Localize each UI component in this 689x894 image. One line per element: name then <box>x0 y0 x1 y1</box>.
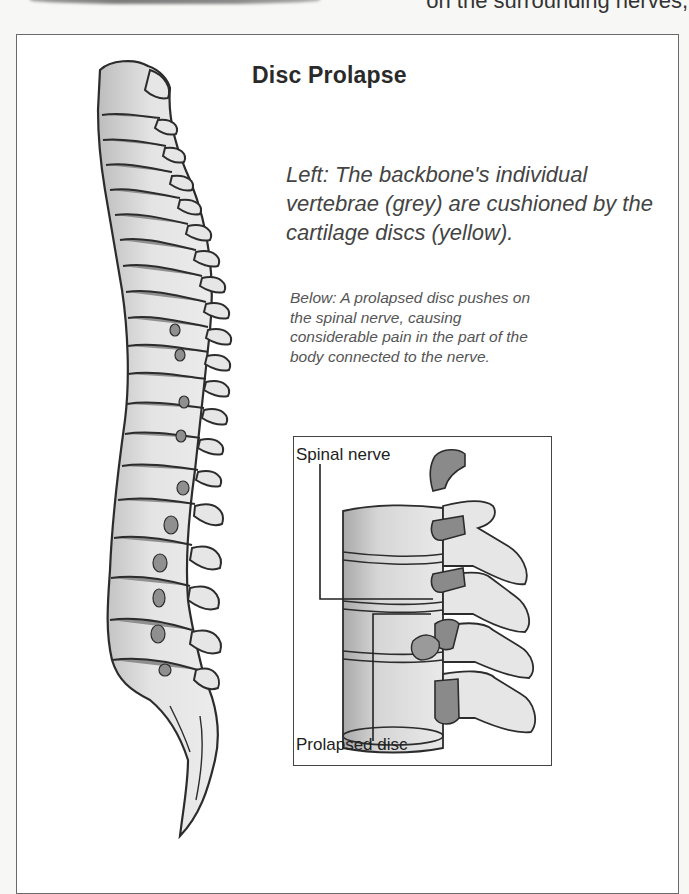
label-spinal-nerve: Spinal nerve <box>296 445 391 465</box>
prolapsed-disc-illustration <box>293 436 552 766</box>
label-prolapsed-disc: Prolapsed disc <box>296 735 408 755</box>
